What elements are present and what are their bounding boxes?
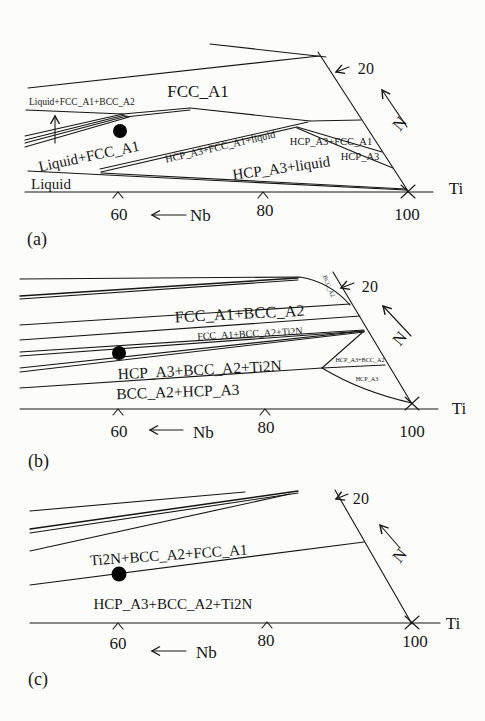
tick-80-label: 80 — [257, 201, 274, 220]
ti-corner-label: Ti — [452, 399, 467, 418]
phase-boundary — [20, 280, 298, 299]
tick-20-arrow — [341, 283, 354, 288]
phase-boundary — [322, 368, 412, 403]
region-label-hcp-fcc: HCP_A3+FCC_A1 — [290, 136, 372, 147]
tick-caret-80 — [258, 192, 268, 198]
n-tick-20-label: 20 — [353, 490, 370, 507]
tick-80-label: 80 — [258, 418, 275, 437]
nb-axis-label: Nb — [193, 423, 214, 442]
panel-tag-c: (c) — [28, 669, 48, 690]
panel-tag-b: (b) — [28, 451, 49, 472]
tick-caret-60 — [113, 192, 123, 198]
phase-boundary — [310, 120, 361, 121]
phase-boundary — [26, 110, 123, 114]
region-label-liquid-fcc-bcc: Liquid+FCC_A1+BCC_A2 — [29, 97, 135, 107]
phase-boundary — [30, 492, 245, 511]
phase-boundary — [30, 494, 290, 551]
region-label-ti2n-bcc-fcc: Ti2N+BCC_A2+FCC_A1 — [89, 542, 248, 569]
composition-point-dot — [113, 124, 127, 138]
n-tick-20-label: 20 — [358, 60, 375, 77]
composition-point-dot — [112, 567, 127, 582]
composition-point-dot — [112, 346, 126, 360]
tick-100-label: 100 — [394, 205, 420, 224]
region-label-hcp: HCP_A3 — [341, 151, 380, 162]
phase-boundary — [20, 330, 364, 352]
tick-caret-60 — [113, 623, 123, 629]
phase-boundary — [210, 44, 326, 57]
phase-boundary — [322, 365, 385, 368]
region-label-fcc-a1: FCC_A1 — [167, 82, 228, 101]
figure-canvas: FCC_A1 Liquid+FCC_A1+BCC_A2 Liquid+FCC_A… — [0, 0, 485, 721]
region-label-hcp-fcc-liquid: HCP_A3+FCC_A1+liquid — [164, 128, 277, 164]
phase-boundary — [190, 108, 310, 121]
region-label-hcp-bcc-ti2n: HCP_A3+BCC_A2+Ti2N — [94, 596, 253, 612]
ti-corner-label: Ti — [449, 179, 464, 198]
region-label-hcp-bcc-ti2n: HCP_A3+BCC_A2+Ti2N — [117, 357, 282, 383]
tick-100-label: 100 — [399, 422, 425, 441]
phase-boundary — [25, 116, 127, 143]
panel-tag-a: (a) — [27, 229, 47, 250]
region-label-hcp-liquid: HCP_A3+liquid — [231, 153, 331, 183]
nb-axis-label: Nb — [196, 643, 217, 662]
tick-60-label: 60 — [110, 634, 127, 653]
tick-caret-60 — [113, 409, 123, 415]
region-label-fcc-bcc: FCC_A1+BCC_A2 — [174, 302, 305, 326]
region-label-hcp-bcc-small: HCP_A3+BCC_A2 — [335, 356, 384, 363]
phase-boundary — [20, 277, 350, 305]
phase-diagram-figure: FCC_A1 Liquid+FCC_A1+BCC_A2 Liquid+FCC_A… — [0, 0, 485, 721]
panel-b: FCC_A1+BCC_A2 FCC_A1+BCC_A2+Ti2N HCP_A3+… — [20, 272, 467, 472]
tick-20-arrow — [336, 67, 349, 72]
n-tick-20-label: 20 — [362, 278, 379, 295]
panel-c: Ti2N+BCC_A2+FCC_A1 HCP_A3+BCC_A2+Ti2N 20… — [28, 490, 461, 690]
phase-boundary — [20, 278, 298, 296]
region-label-bcc-edge: BCC_A2 — [322, 274, 337, 298]
ti-corner-label: Ti — [446, 614, 461, 633]
tick-60-label: 60 — [111, 205, 128, 224]
region-label-bcc-hcp: BCC_A2+HCP_A3 — [116, 381, 240, 402]
n-axis-label: N — [389, 113, 411, 135]
phase-boundary — [25, 115, 125, 140]
phase-boundary — [28, 171, 406, 190]
tick-caret-80 — [260, 409, 270, 415]
region-label-hcp-small: HCP_A3 — [356, 375, 379, 382]
n-axis-label: N — [389, 545, 411, 567]
panel-a: FCC_A1 Liquid+FCC_A1+BCC_A2 Liquid+FCC_A… — [25, 44, 464, 250]
region-label-liquid-fcc: Liquid+FCC_A1 — [37, 138, 141, 175]
n-axis-label: N — [389, 328, 411, 350]
nb-axis-label: Nb — [190, 206, 211, 225]
phase-boundary — [30, 491, 298, 529]
region-label-liquid: Liquid — [31, 176, 71, 192]
tick-60-label: 60 — [111, 422, 128, 441]
n-axis-arrow — [380, 525, 400, 548]
tick-100-label: 100 — [402, 632, 428, 651]
tick-80-label: 80 — [258, 631, 275, 650]
